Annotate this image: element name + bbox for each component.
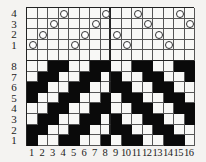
drawdown-cell [59,72,70,83]
threading-cell [111,40,122,51]
drawdown-cell [132,72,143,83]
drawdown-cell [153,114,164,125]
threading-cell [38,19,49,30]
drawdown-cell [132,93,143,104]
drawdown-cell [185,82,196,93]
column-label: 10 [121,146,132,160]
threading-cell [80,19,91,30]
circle-icon [134,10,142,18]
drawdown-cell [132,82,143,93]
column-label: 2 [37,146,48,160]
threading-cell [48,29,59,40]
circle-icon [81,31,89,39]
drawdown-cell [143,135,154,146]
drawdown-cell [164,103,175,114]
drawdown-cell [122,72,133,83]
threading-cell [132,40,143,51]
drawdown-cell [122,93,133,104]
drawdown-cell [143,72,154,83]
drawdown-cell [132,61,143,72]
drawdown-cell [80,135,91,146]
drawdown-cell [111,135,122,146]
drawdown-cell [164,93,175,104]
drawdown-cell [122,61,133,72]
drawdown-cell [90,103,101,114]
column-label: 13 [152,146,163,160]
threading-cell [27,8,38,19]
threading-cell [111,8,122,19]
drawdown-cell [69,61,80,72]
drawdown-cell [143,114,154,125]
drawdown-cell [59,82,70,93]
drawdown-cell [48,125,59,136]
drawdown-grid [26,60,194,146]
threading-cell [69,40,80,51]
circle-icon [39,31,47,39]
drawdown-cell [48,114,59,125]
threading-cell [164,29,175,40]
threading-cell [185,8,196,19]
drawdown-cell [164,125,175,136]
threading-cell [101,40,112,51]
drawdown-cell [111,93,122,104]
threading-cell [38,29,49,40]
drawdown-cell [80,125,91,136]
spacer-cell [38,50,49,61]
drawdown-cell [69,72,80,83]
spacer-cell [164,50,175,61]
threading-cell [27,19,38,30]
threading-cell [111,29,122,40]
column-label: 12 [142,146,153,160]
drawdown-cell [27,135,38,146]
threading-cell [59,8,70,19]
drawdown-cell [80,114,91,125]
drawdown-cell [27,61,38,72]
threading-cell [48,19,59,30]
spacer-cell [90,50,101,61]
drawdown-cell [111,82,122,93]
drawdown-cell [153,103,164,114]
column-label: 7 [89,146,100,160]
threading-cell [27,29,38,40]
drawdown-cell [38,61,49,72]
spacer-cell [27,50,38,61]
threading-cell [101,8,112,19]
column-label: 11 [131,146,142,160]
drawdown-cell [174,82,185,93]
drawdown-cell [164,61,175,72]
column-label: 5 [68,146,79,160]
drawdown-cell [69,93,80,104]
threading-cell [143,8,154,19]
drawdown-cell [132,135,143,146]
circle-icon [123,41,131,49]
circle-icon [50,20,58,28]
circle-icon [60,10,68,18]
drawdown-cell [143,103,154,114]
threading-cell [164,8,175,19]
drawdown-cell [164,72,175,83]
drawdown-cell [174,93,185,104]
drawdown-cell [69,103,80,114]
threading-cell [38,8,49,19]
threading-cell [69,19,80,30]
drawdown-cell [80,93,91,104]
drawdown-cell [38,93,49,104]
column-label: 9 [110,146,121,160]
drawdown-cell [59,125,70,136]
drawdown-cell [90,72,101,83]
threading-cell [69,8,80,19]
drawdown-cell [111,114,122,125]
drawdown-cell [174,72,185,83]
spacer-cell [111,50,122,61]
drawdown-cell [185,114,196,125]
drawdown-cell [185,103,196,114]
drawdown-cell [48,82,59,93]
drawdown-cell [101,72,112,83]
drawdown-cell [143,82,154,93]
drawdown-cell [111,61,122,72]
threading-cell [132,8,143,19]
threading-cell [122,19,133,30]
threading-cell [153,40,164,51]
drawdown-cell [153,61,164,72]
threading-cell [27,40,38,51]
